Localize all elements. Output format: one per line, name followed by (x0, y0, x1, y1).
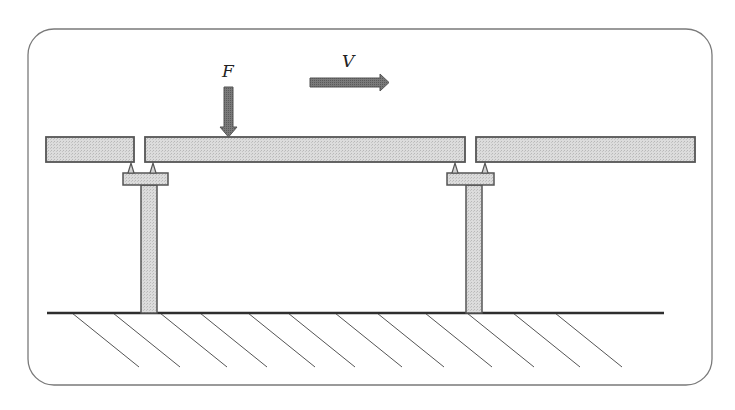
force-label: F (221, 61, 235, 81)
left-pier (123, 163, 168, 313)
hatch-line (425, 313, 492, 367)
hatch-line (248, 313, 315, 367)
figure-caption (0, 399, 735, 410)
pier-cap (447, 173, 494, 185)
hatch-line (555, 313, 622, 367)
hatch-line (200, 313, 267, 367)
middle-girder (145, 137, 465, 162)
pier-cap (123, 173, 168, 185)
hatch-line (377, 313, 444, 367)
ground-hatching (72, 313, 622, 367)
hatch-line (513, 313, 580, 367)
right-girder (476, 137, 695, 162)
bearing-icon (482, 163, 488, 173)
velocity-label: V (342, 51, 356, 71)
hatch-line (72, 313, 139, 367)
pier-column (466, 185, 482, 313)
right-pier (447, 163, 494, 313)
left-girder (46, 137, 134, 162)
arrow-down-icon (220, 87, 237, 137)
bearing-icon (128, 163, 134, 173)
bearing-icon (150, 163, 156, 173)
velocity-arrow: V (310, 51, 389, 91)
pier-column (141, 185, 157, 313)
force-arrow: F (220, 61, 237, 137)
hatch-line (467, 313, 534, 367)
bearing-icon (452, 163, 458, 173)
arrow-right-icon (310, 74, 389, 91)
bridge-diagram: F V (0, 0, 735, 410)
